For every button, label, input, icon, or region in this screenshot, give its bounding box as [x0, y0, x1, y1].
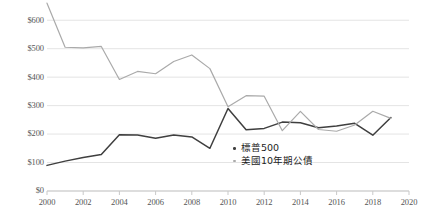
series-lines	[47, 3, 391, 165]
legend-marker-treasury	[232, 157, 239, 164]
legend-item-sp500: 標普500	[232, 142, 313, 155]
legend-item-treasury: 美國10年期公債	[232, 155, 313, 168]
legend-label-treasury: 美國10年期公債	[241, 155, 313, 168]
series-line-sp500	[47, 108, 391, 165]
legend-marker-sp500	[232, 145, 239, 152]
legend-label-sp500: 標普500	[241, 142, 279, 155]
x-axis-ticks	[47, 191, 409, 195]
chart-legend: 標普500 美國10年期公債	[232, 142, 313, 167]
series-line-treasury	[47, 3, 391, 131]
